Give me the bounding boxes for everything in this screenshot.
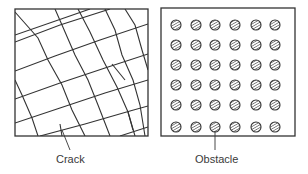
obstacle-circle	[210, 20, 220, 30]
obstacle-circle	[210, 80, 220, 90]
obstacle-circle	[191, 40, 201, 50]
obstacle-grid	[171, 20, 280, 132]
crack-panel: Crack	[15, 9, 148, 165]
obstacle-circle	[191, 80, 201, 90]
obstacle-panel: Obstacle	[161, 8, 295, 165]
obstacle-circle	[251, 60, 261, 70]
obstacle-circle	[230, 40, 240, 50]
obstacle-circle	[270, 100, 280, 110]
obstacle-circle	[230, 100, 240, 110]
obstacle-circle	[171, 20, 181, 30]
obstacle-label: Obstacle	[195, 153, 238, 165]
obstacle-circle	[171, 60, 181, 70]
obstacle-circle	[171, 40, 181, 50]
obstacle-circle	[230, 80, 240, 90]
obstacle-circle	[210, 60, 220, 70]
obstacle-circle	[251, 122, 261, 132]
crack-label: Crack	[56, 153, 85, 165]
obstacle-circle	[210, 122, 220, 132]
obstacle-circle	[270, 20, 280, 30]
obstacle-circle	[191, 122, 201, 132]
obstacle-circle	[210, 40, 220, 50]
obstacle-circle	[270, 122, 280, 132]
obstacle-circle	[171, 80, 181, 90]
obstacle-circle	[230, 122, 240, 132]
obstacle-circle	[171, 122, 181, 132]
obstacle-circle	[251, 20, 261, 30]
crack-leader-line	[62, 130, 70, 150]
obstacle-circle	[230, 60, 240, 70]
obstacle-circle	[270, 80, 280, 90]
obstacle-circle	[270, 60, 280, 70]
obstacle-circle	[191, 20, 201, 30]
obstacle-circle	[171, 100, 181, 110]
obstacle-circle	[251, 100, 261, 110]
obstacle-circle	[191, 60, 201, 70]
obstacle-circle	[191, 100, 201, 110]
obstacle-circle	[251, 80, 261, 90]
obstacle-circle	[230, 20, 240, 30]
obstacle-circle	[270, 40, 280, 50]
obstacle-circle	[251, 40, 261, 50]
obstacle-circle	[210, 100, 220, 110]
diagram-canvas: Crack Obstacle	[0, 0, 308, 174]
crack-lines	[15, 9, 148, 136]
